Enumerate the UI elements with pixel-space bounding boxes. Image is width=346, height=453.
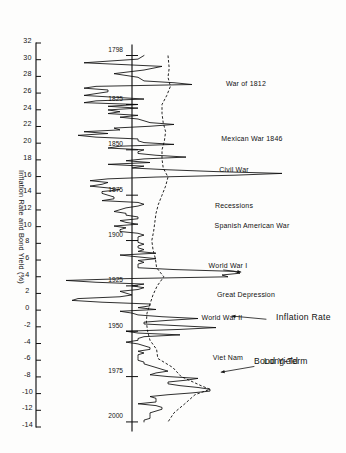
bond-yield-leader [221,366,255,372]
rotated-chart-stage: 32302826242220181614121086420-2-4-6-8-10… [12,17,334,437]
year-axis: 179818251850187519001925195019752000 [108,45,138,431]
annotation-label: Inflation Rate [276,312,331,322]
annotation-label: War of 1812 [226,80,266,87]
annotation-mexican-war-1846: Mexican War 1846 [221,134,282,141]
annotation-great-depression: Great Depression [217,290,275,298]
value-axis-title: Inflation Rate and Bond Yield (%) [17,170,26,284]
value-tick-label: 0 [25,303,29,312]
value-tick-label: -4 [24,336,31,345]
value-tick-label: -12 [22,403,33,412]
annotation-world-war-i: World War I [209,261,248,268]
annotation-label: World War I [209,261,248,268]
annotation-label: Mexican War 1846 [221,134,282,141]
figure-page: 32302826242220181614121086420-2-4-6-8-10… [0,0,346,453]
bond-yield-leader-arrow [221,369,225,372]
annotation-label: Bond Yield [254,355,298,365]
value-tick-label: 2 [25,286,29,295]
year-tick-label: 2000 [108,412,123,419]
annotation-recessions: Recessions [215,201,253,208]
annotation-viet-nam: Viet Nam [213,354,243,361]
year-tick-label: 1950 [108,321,123,328]
annotation-label: Recessions [215,201,253,208]
value-tick-label: 32 [23,36,31,45]
value-tick-label: 20 [23,136,31,145]
value-tick-label: -10 [22,386,33,395]
value-tick-label: -6 [24,353,31,362]
year-tick-label: 1975 [108,367,123,374]
value-tick-label: -2 [24,319,31,328]
annotation-label: Viet Nam [213,354,243,361]
series-long-term-bond-yield [146,55,210,421]
annotation-civil-war: Civil War [219,165,249,172]
value-tick-label: 22 [23,119,31,128]
annotation-label: World War II [202,314,243,321]
value-tick-label: 28 [23,69,31,78]
annotation-label: Civil War [219,165,249,172]
annotation-long-term-bond-yield: Long-TermBond Yield [254,355,308,365]
annotation-war-of-1812: War of 1812 [226,80,266,87]
value-tick-label: 26 [23,86,31,95]
annotation-label: Spanish American War [215,221,290,229]
annotation-layer: Inflation RateLong-TermBond YieldViet Na… [202,80,331,373]
value-tick-label: -14 [22,420,33,429]
annotation-spanish-american-war: Spanish American War [215,221,290,229]
annotation-label: Great Depression [217,290,275,298]
year-tick-label: 1798 [108,46,123,53]
chart-plot-area: 32302826242220181614121086420-2-4-6-8-10… [12,17,334,437]
annotation-world-war-ii: World War II [202,314,243,321]
value-tick-label: 30 [23,52,31,61]
value-tick-label: -8 [24,369,31,378]
value-tick-label: 18 [23,152,31,161]
inflation-bond-yield-chart: 32302826242220181614121086420-2-4-6-8-10… [12,17,334,437]
annotation-inflation-rate: Inflation Rate [276,312,331,322]
series-inflation-rate [66,55,282,421]
value-tick-label: 24 [23,102,31,111]
